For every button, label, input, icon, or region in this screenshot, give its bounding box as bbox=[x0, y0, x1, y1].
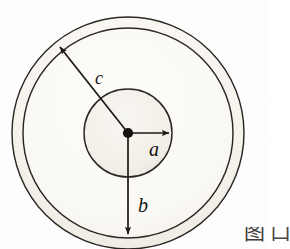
radius-label-b: b bbox=[138, 194, 148, 216]
figure-root: a b c 图 口 bbox=[0, 0, 290, 249]
radius-label-a: a bbox=[149, 138, 159, 160]
center-dot bbox=[123, 128, 133, 138]
concentric-circles-diagram: a b c bbox=[0, 0, 290, 249]
radius-label-c: c bbox=[95, 68, 103, 88]
